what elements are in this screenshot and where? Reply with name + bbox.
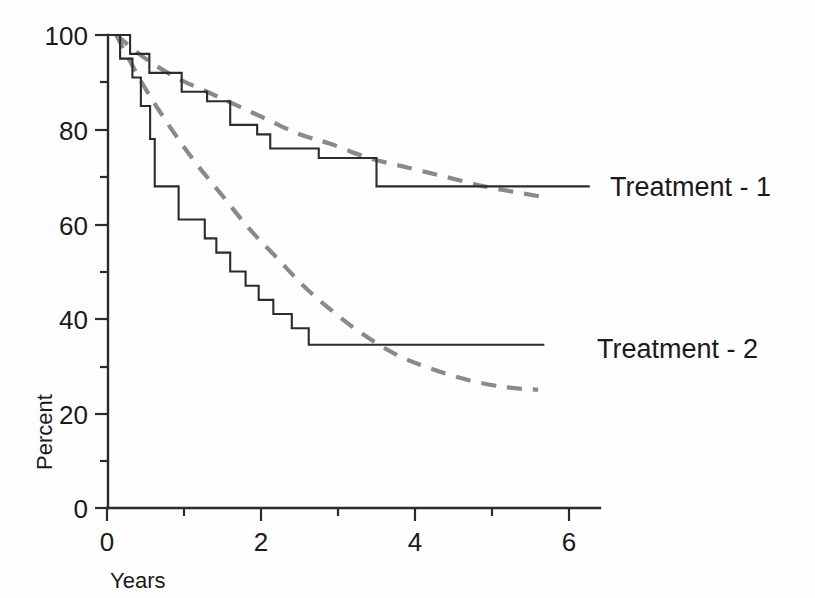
treatment-2-label: Treatment - 2 bbox=[597, 334, 758, 364]
series-path-treatment-1 bbox=[107, 35, 590, 186]
y-tick-label-60: 60 bbox=[59, 211, 88, 241]
x-axis-title: Years bbox=[110, 568, 165, 593]
x-tick-label-4: 4 bbox=[408, 527, 422, 557]
y-tick-label-40: 40 bbox=[59, 305, 88, 335]
treatment-1-label: Treatment - 1 bbox=[610, 172, 771, 202]
y-tick-label-0: 0 bbox=[74, 494, 88, 524]
y-tick-label-80: 80 bbox=[59, 116, 88, 146]
x-tick-label-0: 0 bbox=[100, 527, 114, 557]
series-path-treatment-2 bbox=[107, 35, 544, 345]
x-tick-label-2: 2 bbox=[254, 527, 268, 557]
y-tick-label-100: 100 bbox=[45, 21, 88, 51]
y-tick-label-20: 20 bbox=[59, 400, 88, 430]
series-path-treatment-1-fitted bbox=[116, 35, 550, 198]
series-group bbox=[107, 35, 590, 390]
chart-canvas: 100 80 60 40 20 0 0 2 4 6 Percent Years bbox=[0, 0, 815, 598]
x-tick-label-6: 6 bbox=[562, 527, 576, 557]
survival-chart-figure: 100 80 60 40 20 0 0 2 4 6 Percent Years bbox=[0, 0, 815, 598]
y-axis-title: Percent bbox=[32, 394, 57, 470]
